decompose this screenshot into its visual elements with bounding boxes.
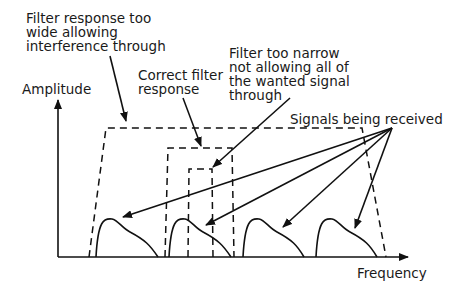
narrow-filter-arrow	[213, 98, 290, 167]
wide-filter-label: Filter response too wide allowing interf…	[26, 10, 166, 54]
wide-filter-arrow	[110, 56, 126, 121]
signal-3	[243, 219, 304, 257]
y-axis-label: Amplitude	[22, 81, 91, 97]
signal-humps	[96, 219, 377, 257]
correct-filter-label: Correct filter response	[138, 67, 227, 97]
correct-filter-arrow	[183, 98, 201, 146]
wide-filter-response	[89, 128, 386, 257]
signal-2	[169, 219, 231, 257]
x-axis-label: Frequency	[357, 265, 427, 281]
signals-label: Signals being received	[290, 111, 443, 127]
filter-response-diagram: Amplitude Frequency Filter response too …	[0, 0, 452, 294]
signal-1	[96, 219, 158, 257]
signal-arrows	[123, 128, 392, 228]
correct-filter-response	[165, 148, 234, 257]
narrow-filter-label: Filter too narrow not allowing all of th…	[229, 45, 354, 103]
signal-4	[316, 219, 377, 257]
narrow-filter-response	[188, 169, 213, 257]
